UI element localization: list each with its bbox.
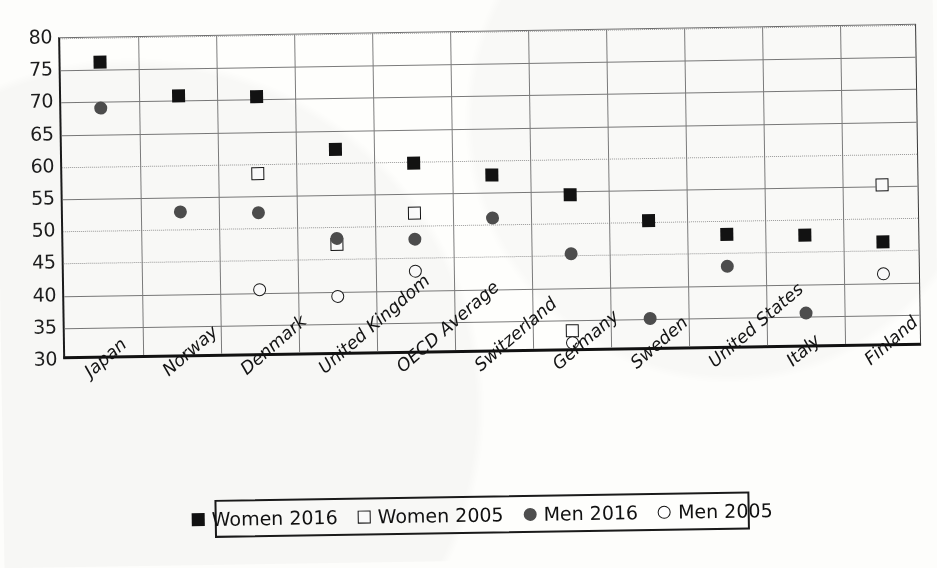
legend-item-label: Men 2016 [543, 503, 638, 523]
filled-circle-icon [523, 507, 536, 520]
data-point-marker [251, 167, 264, 180]
gridline-vertical [762, 27, 768, 345]
gridline-vertical [528, 31, 534, 349]
gridline-vertical [138, 37, 144, 355]
data-point-marker [641, 214, 654, 227]
y-axis-tick-label: 50 [9, 221, 55, 241]
y-axis-tick-label: 45 [10, 253, 56, 273]
data-point-marker [799, 307, 812, 320]
gridline-horizontal [63, 186, 918, 200]
gridline-horizontal [64, 250, 919, 264]
data-point-marker [251, 206, 264, 219]
gridline-vertical [372, 33, 378, 351]
x-axis-category-labels: JapanNorwayDenmarkUnited KingdomOECD Ave… [0, 0, 933, 7]
legend-item[interactable]: Women 2016 [192, 507, 338, 528]
data-point-marker [94, 102, 107, 115]
y-axis-tick-label: 80 [6, 27, 52, 47]
plot-area [58, 24, 921, 359]
y-axis-tick-label: 75 [6, 60, 52, 80]
data-point-marker [720, 260, 733, 273]
gridline-horizontal [61, 57, 916, 71]
data-point-marker [876, 235, 889, 248]
y-axis-tick-label: 65 [8, 124, 54, 144]
data-point-marker [249, 90, 262, 103]
legend-item-label: Men 2005 [678, 501, 773, 521]
data-point-marker [407, 206, 420, 219]
data-point-marker [408, 232, 421, 245]
gridline-horizontal [60, 25, 915, 39]
gridline-horizontal [61, 89, 916, 103]
legend-item[interactable]: Men 2005 [658, 501, 773, 522]
data-point-marker [485, 169, 498, 182]
gridline-vertical [216, 36, 222, 354]
legend-item-label: Women 2016 [212, 507, 338, 528]
legend-item[interactable]: Men 2016 [523, 503, 638, 524]
legend-item-label: Women 2005 [378, 505, 504, 526]
data-point-marker [564, 247, 577, 260]
y-axis-tick-label: 70 [7, 92, 53, 112]
data-point-marker [407, 156, 420, 169]
data-point-marker [171, 90, 184, 103]
gridline-vertical [294, 35, 300, 353]
data-point-marker [876, 267, 889, 280]
y-axis: 8075706560555045403530 [0, 6, 57, 360]
gridline-vertical [840, 26, 846, 344]
y-axis-tick-label: 55 [9, 188, 55, 208]
filled-square-icon [192, 513, 205, 526]
gridline-horizontal [62, 154, 917, 168]
y-axis-tick-label: 30 [11, 349, 57, 369]
data-point-marker [331, 290, 344, 303]
chart-legend: Women 2016Women 2005Men 2016Men 2005 [214, 491, 750, 537]
y-axis-tick-label: 60 [8, 156, 54, 176]
data-point-marker [253, 283, 266, 296]
data-point-marker [485, 212, 498, 225]
gridline-vertical [450, 32, 456, 350]
data-point-marker [328, 143, 341, 156]
y-axis-tick-label: 35 [11, 317, 57, 337]
gridline-horizontal [65, 315, 920, 329]
data-point-marker [93, 56, 106, 69]
data-point-marker [173, 205, 186, 218]
open-circle-icon [658, 505, 671, 518]
legend-item[interactable]: Women 2005 [358, 505, 504, 526]
data-point-marker [643, 312, 656, 325]
y-axis-tick-label: 40 [10, 285, 56, 305]
chart-figure: 8075706560555045403530 JapanNorwayDenmar… [0, 0, 937, 568]
gridline-vertical [606, 30, 612, 348]
data-point-marker [720, 228, 733, 241]
open-square-icon [358, 510, 371, 523]
data-point-marker [875, 178, 888, 191]
gridline-horizontal [62, 121, 917, 135]
data-point-marker [330, 231, 343, 244]
gridline-vertical [684, 28, 690, 346]
data-point-marker [798, 229, 811, 242]
data-point-marker [563, 188, 576, 201]
